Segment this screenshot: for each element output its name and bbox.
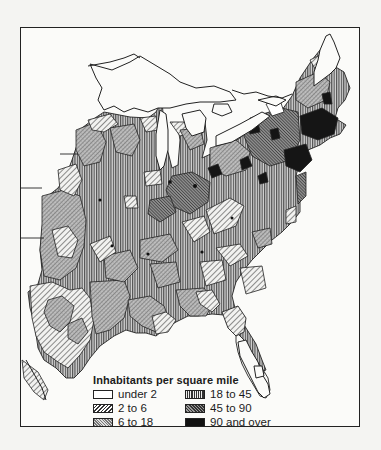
legend-label: 18 to 45 bbox=[210, 388, 252, 400]
legend-label: under 2 bbox=[118, 388, 157, 400]
legend-label: 90 and over bbox=[210, 416, 271, 428]
legend-item-45-to-90: 45 to 90 bbox=[185, 401, 285, 415]
dense-hatch-swatch-icon bbox=[185, 404, 205, 413]
solid-black-swatch-icon bbox=[185, 418, 205, 427]
legend-label: 2 to 6 bbox=[118, 402, 147, 414]
blank-swatch-icon bbox=[93, 390, 113, 399]
map-legend: Inhabitants per square mile under 2 18 t… bbox=[93, 374, 293, 429]
vertical-lines-swatch-icon bbox=[185, 390, 205, 399]
legend-item-6-to-18: 6 to 18 bbox=[93, 415, 185, 429]
legend-item-2-to-6: 2 to 6 bbox=[93, 401, 185, 415]
legend-item-under-2: under 2 bbox=[93, 387, 185, 401]
legend-title: Inhabitants per square mile bbox=[93, 374, 293, 386]
legend-label: 45 to 90 bbox=[210, 402, 252, 414]
region-texas-plains bbox=[22, 282, 94, 400]
legend-item-90-and-over: 90 and over bbox=[185, 415, 285, 429]
legend-item-18-to-45: 18 to 45 bbox=[185, 387, 285, 401]
legend-label: 6 to 18 bbox=[118, 416, 153, 428]
crosshatch-swatch-icon bbox=[93, 418, 113, 427]
diagonal-hatch-swatch-icon bbox=[93, 404, 113, 413]
